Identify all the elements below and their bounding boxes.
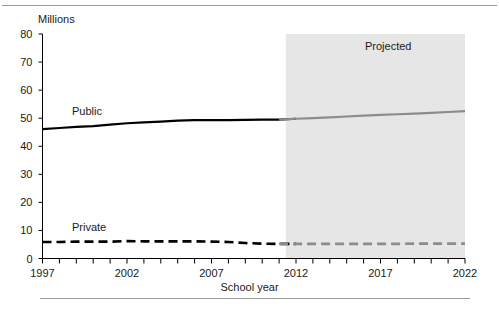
y-tick-label: 60: [11, 85, 33, 96]
y-tick-label: 70: [11, 57, 33, 68]
projected-annotation-label: Projected: [365, 41, 411, 52]
private-series-actual-line: [43, 241, 297, 244]
x-tick-label: 2017: [361, 268, 401, 279]
x-axis-title: School year: [0, 282, 499, 293]
y-tick-label: 0: [11, 254, 33, 265]
x-tick-label: 2022: [445, 268, 485, 279]
y-tick-label: 40: [11, 141, 33, 152]
series-label-public: Public: [72, 106, 102, 117]
x-tick-label: 2002: [107, 268, 147, 279]
enrollment-line-chart: [0, 0, 499, 311]
x-tick-label: 1997: [23, 268, 63, 279]
public-series-actual-line: [43, 119, 297, 129]
y-tick-label: 80: [11, 29, 33, 40]
x-axis-tick-marks: [43, 259, 466, 264]
x-tick-label: 2012: [276, 268, 316, 279]
series-label-private: Private: [72, 222, 106, 233]
x-tick-label: 2007: [192, 268, 232, 279]
y-tick-label: 20: [11, 197, 33, 208]
bottom-divider-rule: [40, 298, 470, 299]
y-tick-label: 30: [11, 169, 33, 180]
y-axis-tick-marks: [39, 34, 43, 259]
projected-shaded-region: [286, 34, 465, 259]
y-tick-label: 10: [11, 225, 33, 236]
y-tick-label: 50: [11, 113, 33, 124]
